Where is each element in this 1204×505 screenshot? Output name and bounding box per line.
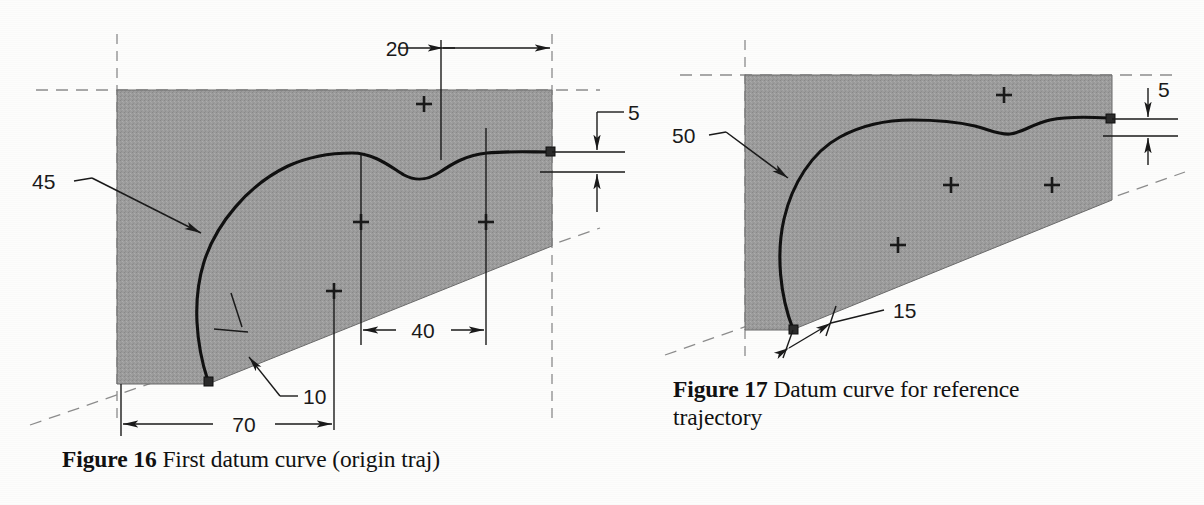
f16-dim70-label: 70 (232, 413, 255, 436)
f16-dim10-leader (249, 357, 280, 396)
f16-dim45-leader-flag (74, 178, 92, 181)
f16-dimension-70 (121, 384, 332, 436)
f16-dim45-label: 45 (32, 170, 55, 193)
figure-16-caption-text: First datum curve (origin traj) (157, 446, 440, 472)
f16-dim10-label: 10 (303, 385, 326, 408)
f17-shaded-body (745, 75, 1112, 330)
figure-17-group: 50 5 15 (665, 40, 1185, 360)
f17-dim50-leader-flag (709, 132, 726, 135)
figure-page: 20 5 45 (0, 0, 1204, 505)
f17-dim50-label: 50 (672, 124, 695, 147)
f16-dim20-label: 20 (386, 37, 409, 60)
f16-dimension-5 (540, 112, 625, 212)
f17-dim15-ext-a (783, 330, 793, 358)
f17-dim5-label: 5 (1158, 78, 1170, 101)
figure-17-caption-label: Figure 17 (673, 376, 768, 402)
figure-16-caption: Figure 16 First datum curve (origin traj… (62, 446, 440, 474)
figure-16-caption-label: Figure 16 (62, 446, 157, 472)
f16-dim40-label: 40 (411, 319, 434, 342)
f16-dim5-label: 5 (628, 101, 640, 124)
figure-17-caption: Figure 17 Datum curve for reference traj… (673, 376, 1103, 431)
f17-dim15-leader (831, 310, 884, 323)
f16-curve-start-point (204, 377, 213, 386)
f17-dim15-label: 15 (893, 299, 916, 322)
f17-curve-start-point (789, 325, 798, 334)
figure-16-group: 20 5 45 (30, 34, 640, 436)
